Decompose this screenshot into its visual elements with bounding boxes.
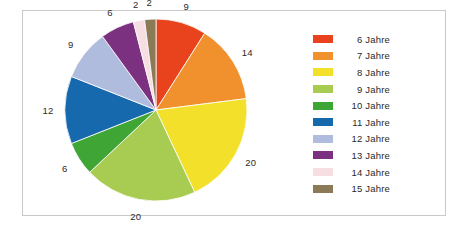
legend-item-label: 9 Jahre	[342, 84, 390, 95]
legend-item[interactable]: 6 Jahre	[313, 31, 433, 48]
legend-item[interactable]: 7 Jahre	[313, 48, 433, 65]
chart-frame: 91420206129622 6 Jahre7 Jahre8 Jahre9 Ja…	[22, 10, 446, 216]
legend-swatch-icon	[313, 102, 333, 110]
pie-slice-label: 6	[107, 7, 112, 18]
legend-swatch-icon	[313, 185, 333, 193]
legend-item-label: 6 Jahre	[342, 34, 390, 45]
legend-item-label: 10 Jahre	[342, 100, 390, 111]
legend-item[interactable]: 8 Jahre	[313, 64, 433, 81]
pie-slice-label: 2	[133, 0, 138, 9]
legend-item[interactable]: 12 Jahre	[313, 131, 433, 148]
legend-swatch-icon	[313, 68, 333, 76]
legend-swatch-icon	[313, 151, 333, 159]
pie-slice-label: 2	[146, 0, 151, 8]
pie-chart-svg	[61, 15, 251, 205]
pie-slice-label: 12	[43, 105, 54, 116]
pie-slice-label: 6	[62, 162, 67, 173]
legend-item-label: 11 Jahre	[342, 117, 390, 128]
chart-legend: 6 Jahre7 Jahre8 Jahre9 Jahre10 Jahre11 J…	[313, 31, 433, 197]
legend-item[interactable]: 15 Jahre	[313, 180, 433, 197]
pie-chart: 91420206129622 6 Jahre7 Jahre8 Jahre9 Ja…	[23, 11, 447, 217]
pie-slice-label: 9	[183, 1, 188, 12]
legend-item-label: 15 Jahre	[342, 183, 390, 194]
legend-item[interactable]: 9 Jahre	[313, 81, 433, 98]
legend-item-label: 8 Jahre	[342, 67, 390, 78]
pie-slice-label: 20	[130, 211, 141, 222]
legend-swatch-icon	[313, 135, 333, 143]
legend-item-label: 13 Jahre	[342, 150, 390, 161]
legend-item[interactable]: 14 Jahre	[313, 164, 433, 181]
legend-item[interactable]: 13 Jahre	[313, 147, 433, 164]
legend-swatch-icon	[313, 35, 333, 43]
pie-slice-label: 9	[68, 38, 73, 49]
legend-item-label: 12 Jahre	[342, 133, 390, 144]
legend-swatch-icon	[313, 52, 333, 60]
legend-swatch-icon	[313, 118, 333, 126]
legend-item[interactable]: 11 Jahre	[313, 114, 433, 131]
legend-swatch-icon	[313, 85, 333, 93]
legend-item[interactable]: 10 Jahre	[313, 97, 433, 114]
pie-slice-label: 14	[242, 47, 253, 58]
legend-item-label: 7 Jahre	[342, 50, 390, 61]
legend-swatch-icon	[313, 168, 333, 176]
pie-slice-label: 20	[245, 157, 256, 168]
legend-item-label: 14 Jahre	[342, 167, 390, 178]
